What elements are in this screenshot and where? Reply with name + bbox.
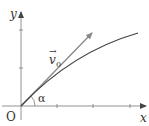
- x-axis-label: x: [140, 111, 147, 125]
- origin-label: O: [6, 110, 16, 124]
- velocity-subscript: 0: [56, 60, 61, 69]
- y-axis-label: y: [9, 7, 17, 21]
- projectile-diagram: y x O α → v 0: [0, 0, 149, 126]
- angle-label: α: [38, 92, 46, 105]
- velocity-label: v: [49, 53, 56, 67]
- angle-arc: [31, 96, 35, 106]
